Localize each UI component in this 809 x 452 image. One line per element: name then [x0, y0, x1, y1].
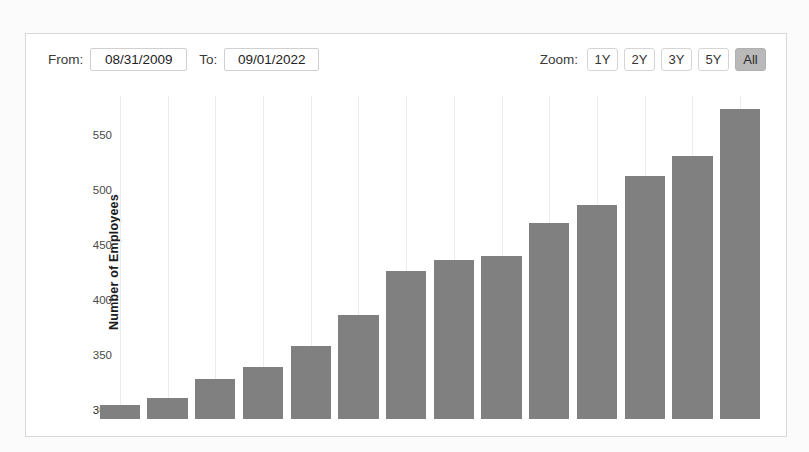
bar[interactable]: [243, 367, 283, 419]
chart-card: From: To: Zoom: 1Y 2Y 3Y 5Y All Number o…: [25, 33, 787, 437]
bar[interactable]: [338, 315, 378, 419]
gridline-vertical: [120, 96, 121, 405]
chart-toolbar: From: To: Zoom: 1Y 2Y 3Y 5Y All: [26, 34, 786, 86]
bar[interactable]: [481, 256, 521, 419]
to-label: To:: [199, 52, 217, 67]
gridline-vertical: [263, 96, 264, 367]
screenshot-root: From: To: Zoom: 1Y 2Y 3Y 5Y All Number o…: [0, 0, 809, 452]
bar[interactable]: [291, 346, 331, 419]
bar-series: [96, 86, 764, 438]
gridline-vertical: [549, 96, 550, 223]
gridline-vertical: [406, 96, 407, 271]
zoom-label: Zoom:: [540, 52, 578, 67]
bar[interactable]: [386, 271, 426, 419]
bar[interactable]: [720, 109, 760, 419]
zoom-button-5y[interactable]: 5Y: [698, 48, 729, 71]
to-date-input[interactable]: [224, 48, 319, 71]
gridline-vertical: [740, 96, 741, 109]
bar[interactable]: [100, 405, 140, 419]
from-label: From:: [48, 52, 83, 67]
bar[interactable]: [672, 156, 712, 419]
bar[interactable]: [625, 176, 665, 419]
bar[interactable]: [195, 379, 235, 419]
zoom-button-3y[interactable]: 3Y: [661, 48, 692, 71]
bar[interactable]: [147, 398, 187, 419]
gridline-vertical: [215, 96, 216, 379]
zoom-group: Zoom: 1Y 2Y 3Y 5Y All: [540, 48, 766, 71]
zoom-button-1y[interactable]: 1Y: [587, 48, 618, 71]
from-date-input[interactable]: [90, 48, 187, 71]
gridline-vertical: [311, 96, 312, 346]
gridline-vertical: [502, 96, 503, 256]
bar[interactable]: [577, 205, 617, 419]
gridline-vertical: [645, 96, 646, 176]
plot-area: Number of Employees 300350400450500550: [26, 86, 786, 438]
gridline-vertical: [358, 96, 359, 315]
zoom-button-2y[interactable]: 2Y: [624, 48, 655, 71]
bar[interactable]: [529, 223, 569, 419]
gridline-vertical: [454, 96, 455, 260]
date-range-group: From: To:: [48, 48, 319, 71]
gridline-vertical: [692, 96, 693, 156]
gridline-vertical: [168, 96, 169, 398]
gridline-vertical: [597, 96, 598, 205]
bar[interactable]: [434, 260, 474, 419]
zoom-button-all[interactable]: All: [735, 48, 766, 71]
